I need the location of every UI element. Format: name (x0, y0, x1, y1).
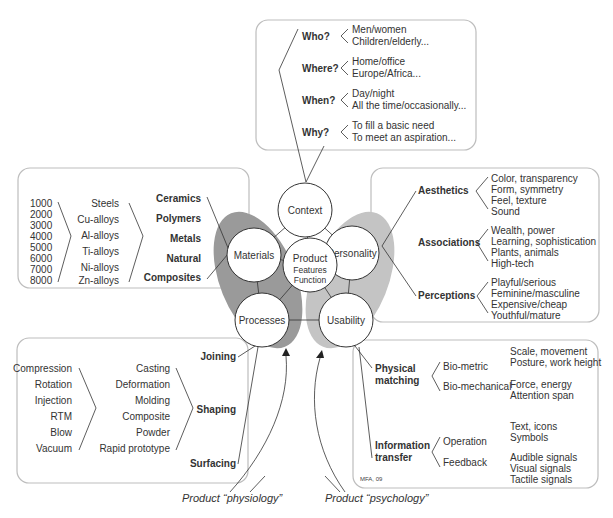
personality-item: High-tech (491, 258, 534, 269)
material-family: Composites (144, 272, 202, 283)
circle-label: Processes (239, 315, 286, 326)
grade: 6000 (30, 253, 53, 264)
personality-item: Form, symmetry (491, 184, 563, 195)
circle-label: Materials (234, 250, 275, 261)
shaping-method: Rapid prototype (99, 443, 170, 454)
usability-subgroup: Feedback (443, 457, 488, 468)
material-family: Ceramics (156, 193, 201, 204)
context-question-when: When? (302, 95, 335, 106)
grade: 3000 (30, 220, 53, 231)
shaping-method: Powder (136, 427, 171, 438)
personality-group-perceptions: Perceptions (418, 290, 476, 301)
usability-box: Physical matching Bio-metric Bio-mechani… (353, 340, 601, 488)
personality-group-associations: Associations (418, 237, 481, 248)
process-category-shaping: Shaping (197, 404, 236, 415)
usability-group-information-transfer: Information (375, 440, 430, 451)
psychology-arrow (314, 350, 345, 492)
circle-context: Context (278, 183, 332, 237)
alloy: Ni-alloys (81, 262, 119, 273)
circle-label: Usability (327, 315, 365, 326)
context-answer: All the time/occasionally... (352, 100, 466, 111)
molding-type: RTM (51, 411, 72, 422)
material-family: Natural (167, 253, 202, 264)
context-answer: Children/elderly... (352, 36, 429, 47)
grade: 1000 (30, 198, 53, 209)
arrow-head-icon (316, 350, 324, 358)
circle-materials: Materials (227, 228, 281, 282)
processes-box: Compression Rotation Injection RTM Blow … (13, 338, 248, 483)
product-character-diagram: Who? Men/women Children/elderly... Where… (0, 0, 613, 518)
usability-group-physical-matching: Physical (375, 363, 416, 374)
context-question-who: Who? (302, 31, 330, 42)
context-box: Who? Men/women Children/elderly... Where… (256, 20, 476, 150)
material-family: Metals (170, 233, 202, 244)
context-answer: Home/office (352, 56, 406, 67)
molding-type: Compression (13, 363, 72, 374)
grade: 5000 (30, 242, 53, 253)
usability-item: Visual signals (510, 463, 571, 474)
personality-item: Expensive/cheap (491, 299, 568, 310)
usability-item: Symbols (510, 432, 548, 443)
usability-subgroup: Operation (443, 436, 487, 447)
usability-group-label: matching (375, 375, 419, 386)
context-question-why: Why? (302, 127, 329, 138)
credit-label: MFA, 09 (360, 476, 383, 482)
alloy: Al-alloys (81, 230, 119, 241)
grade: 2000 (30, 209, 53, 220)
usability-item: Text, icons (510, 421, 557, 432)
grade: 7000 (30, 264, 53, 275)
grade-list: 1000 2000 3000 4000 5000 6000 7000 8000 (30, 198, 53, 286)
context-answer: To meet an aspiration... (352, 132, 456, 143)
process-category-joining: Joining (200, 351, 236, 362)
personality-item: Color, transparency (491, 173, 578, 184)
molding-type: Injection (35, 395, 72, 406)
usability-group-label: transfer (375, 452, 412, 463)
material-family: Polymers (156, 213, 201, 224)
personality-item: Youthful/mature (491, 310, 561, 321)
alloy: Ti-alloys (82, 246, 119, 257)
context-answer: To fill a basic need (352, 120, 434, 131)
personality-item: Learning, sophistication (491, 236, 596, 247)
circle-product: Product Features Function (283, 238, 337, 292)
circle-label: Function (294, 275, 327, 285)
usability-item: Posture, work height (510, 357, 601, 368)
context-answer: Day/night (352, 88, 394, 99)
personality-item: Feel, texture (491, 195, 547, 206)
personality-item: Sound (491, 206, 520, 217)
grade: 4000 (30, 231, 53, 242)
caption-physiology: Product “physiology” (182, 492, 284, 504)
usability-subgroup: Bio-mechanical (443, 381, 511, 392)
shaping-method: Casting (136, 363, 170, 374)
alloy: Steels (91, 198, 119, 209)
context-question-where: Where? (302, 63, 339, 74)
alloy: Cu-alloys (77, 214, 119, 225)
usability-item: Attention span (510, 390, 574, 401)
circle-label: Features (293, 265, 327, 275)
process-category-surfacing: Surfacing (190, 458, 236, 469)
shaping-method: Composite (122, 411, 170, 422)
context-answer: Men/women (352, 24, 406, 35)
shaping-method: Molding (135, 395, 170, 406)
molding-type: Vacuum (36, 443, 72, 454)
arrow-head-icon (282, 348, 290, 356)
circle-processes: Processes (235, 293, 289, 347)
circle-label: Context (288, 205, 323, 216)
personality-item: Plants, animals (491, 247, 559, 258)
usability-item: Force, energy (510, 379, 572, 390)
alloy: Zn-alloys (78, 275, 119, 286)
grade: 8000 (30, 275, 53, 286)
context-answer: Europe/Africa... (352, 68, 421, 79)
molding-type: Blow (50, 427, 72, 438)
shaping-method: Deformation (116, 379, 170, 390)
caption-psychology: Product “psychology” (325, 492, 430, 504)
personality-box: Aesthetics Color, transparency Form, sym… (371, 168, 599, 322)
personality-item: Feminine/masculine (491, 288, 580, 299)
molding-type: Rotation (35, 379, 72, 390)
personality-item: Playful/serious (491, 277, 556, 288)
usability-item: Tactile signals (510, 474, 572, 485)
circle-label: Product (293, 253, 328, 264)
usability-item: Scale, movement (510, 346, 587, 357)
usability-item: Audible signals (510, 452, 577, 463)
usability-subgroup: Bio-metric (443, 361, 488, 372)
personality-item: Wealth, power (491, 225, 555, 236)
